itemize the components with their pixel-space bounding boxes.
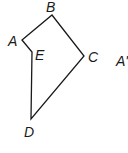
image-point-label-a-prime: A': [115, 53, 128, 69]
vertex-label-c: C: [88, 49, 99, 65]
vertex-label-a: A: [7, 33, 17, 49]
vertex-label-b: B: [46, 0, 55, 15]
vertex-label-e: E: [35, 47, 45, 63]
polygon-ABCDE: [22, 15, 84, 119]
vertex-label-d: D: [24, 124, 34, 140]
polygon-diagram: A B C D E A': [0, 0, 128, 153]
